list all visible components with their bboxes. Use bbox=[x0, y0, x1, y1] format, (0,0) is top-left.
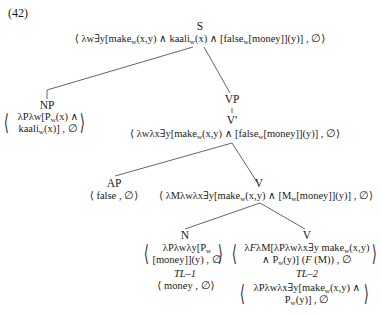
node-vbar-formula: ⟨ λwλx∃y[makew(x,y) ∧ [falsew[money]](y)… bbox=[130, 128, 340, 140]
edge-v-n bbox=[185, 203, 260, 229]
node-v2-lexical: ⟨ λPλwλx∃y[makew(x,y) ∧ Pw(y)] , ∅ ⟩ bbox=[240, 280, 374, 310]
node-ap-label: AP bbox=[104, 177, 124, 189]
node-v-formula: ⟨ λMλwλx∃y[makew(x,y) ∧ [Mw[money]](y)] … bbox=[152, 190, 380, 202]
node-v2-rule: TL–2 bbox=[282, 268, 332, 280]
node-v-label: V bbox=[252, 177, 266, 189]
node-v2-formula: ⟨ λFλM[λPλwλx∃y makew(x,y) ∧ Pw(y)] (F (… bbox=[232, 240, 382, 268]
edge-s-vp bbox=[204, 47, 230, 93]
edge-s-np bbox=[47, 47, 193, 99]
node-vp-label: VP bbox=[222, 93, 242, 105]
node-s-formula: ⟨ λw∃y[makew(x,y) ∧ kaaliw(x) ∧ [falsew[… bbox=[70, 33, 330, 45]
node-n-rule: TL–1 bbox=[160, 268, 210, 280]
node-ap-formula: ⟨ false , ∅⟩ bbox=[84, 190, 144, 202]
node-s-label: S bbox=[193, 20, 207, 32]
edge-vbar-ap bbox=[115, 143, 232, 176]
node-vbar-label: V' bbox=[224, 114, 240, 126]
node-n-formula: ⟨ λPλwλy[Pw [money]](y) , ∅ ⟩ bbox=[144, 240, 230, 268]
edge-v-v bbox=[260, 203, 305, 229]
node-np-formula: ⟨ λPλw[Pw(x) ∧ kaaliw(x)] , ∅ ⟩ bbox=[4, 109, 92, 137]
node-n-lexical: ⟨ money , ∅⟩ bbox=[150, 280, 222, 292]
example-number: (42) bbox=[8, 6, 28, 21]
